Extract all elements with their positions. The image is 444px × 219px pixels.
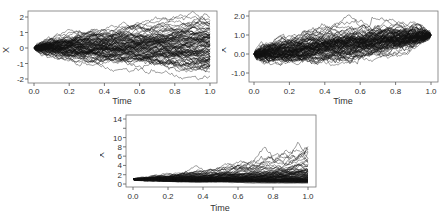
x-tick-label: 0.2: [284, 87, 296, 96]
x-axis: 0.00.20.40.60.81.0: [28, 83, 216, 96]
x-tick-label: 0.6: [355, 87, 367, 96]
y-axis: 024681014: [113, 115, 126, 189]
y-tick-label: -1: [17, 60, 25, 69]
chart-geometric-brownian-motion: 024681014 0.00.20.40.60.81.0 X Time: [100, 110, 340, 219]
chart-brownian-motion: -2-1012 0.00.20.40.60.81.0 X Time: [0, 0, 222, 110]
y-axis-label: X: [1, 47, 11, 53]
y-tick-label: 1.0: [234, 31, 246, 40]
y-tick-label: 14: [113, 115, 122, 124]
y-tick-label: 2.0: [234, 12, 246, 21]
x-tick-label: 1.0: [302, 192, 314, 201]
y-tick-label: 0: [118, 180, 123, 189]
plot-area: [254, 15, 431, 66]
y-tick-label: 2: [118, 171, 123, 180]
plot-area: [133, 142, 308, 183]
y-axis: -2-1012: [17, 13, 28, 84]
y-tick-label: 4: [118, 161, 123, 170]
x-tick-label: 0.6: [134, 87, 146, 96]
x-tick-label: 0.0: [28, 87, 40, 96]
y-axis: -1.00.01.02.0: [231, 12, 249, 78]
x-tick-label: 0.0: [248, 87, 260, 96]
chart-brownian-bridge: -1.00.01.02.0 0.00.20.40.60.81.0 X Time: [222, 0, 444, 110]
x-axis-label: Time: [112, 96, 132, 106]
x-axis: 0.00.20.40.60.81.0: [248, 82, 437, 96]
x-tick-label: 0.4: [197, 192, 209, 201]
x-tick-label: 0.8: [390, 87, 402, 96]
x-tick-label: 0.8: [267, 192, 279, 201]
x-tick-label: 1.0: [204, 87, 216, 96]
y-tick-label: 10: [113, 134, 122, 143]
y-tick-label: 0.0: [234, 50, 246, 59]
y-tick-label: 6: [118, 152, 123, 161]
y-tick-label: -1.0: [231, 69, 245, 78]
y-tick-label: -2: [17, 75, 25, 84]
x-tick-label: 0.8: [169, 87, 181, 96]
x-tick-label: 0.0: [127, 192, 139, 201]
y-tick-label: 0: [20, 44, 25, 53]
y-tick-label: 8: [118, 143, 123, 152]
plot-area: [34, 11, 210, 79]
y-tick-label: 1: [20, 29, 25, 38]
x-tick-label: 0.4: [319, 87, 331, 96]
x-tick-label: 1.0: [425, 87, 437, 96]
x-tick-label: 0.2: [162, 192, 174, 201]
y-tick-label: 2: [20, 13, 25, 22]
x-axis: 0.00.20.40.60.81.0: [127, 187, 314, 201]
x-tick-label: 0.2: [64, 87, 76, 96]
y-axis-label: X: [222, 47, 228, 53]
y-axis-label: X: [100, 152, 106, 158]
x-axis-label: Time: [333, 96, 353, 106]
x-axis-label: Time: [210, 203, 230, 213]
x-tick-label: 0.4: [99, 87, 111, 96]
x-tick-label: 0.6: [232, 192, 244, 201]
